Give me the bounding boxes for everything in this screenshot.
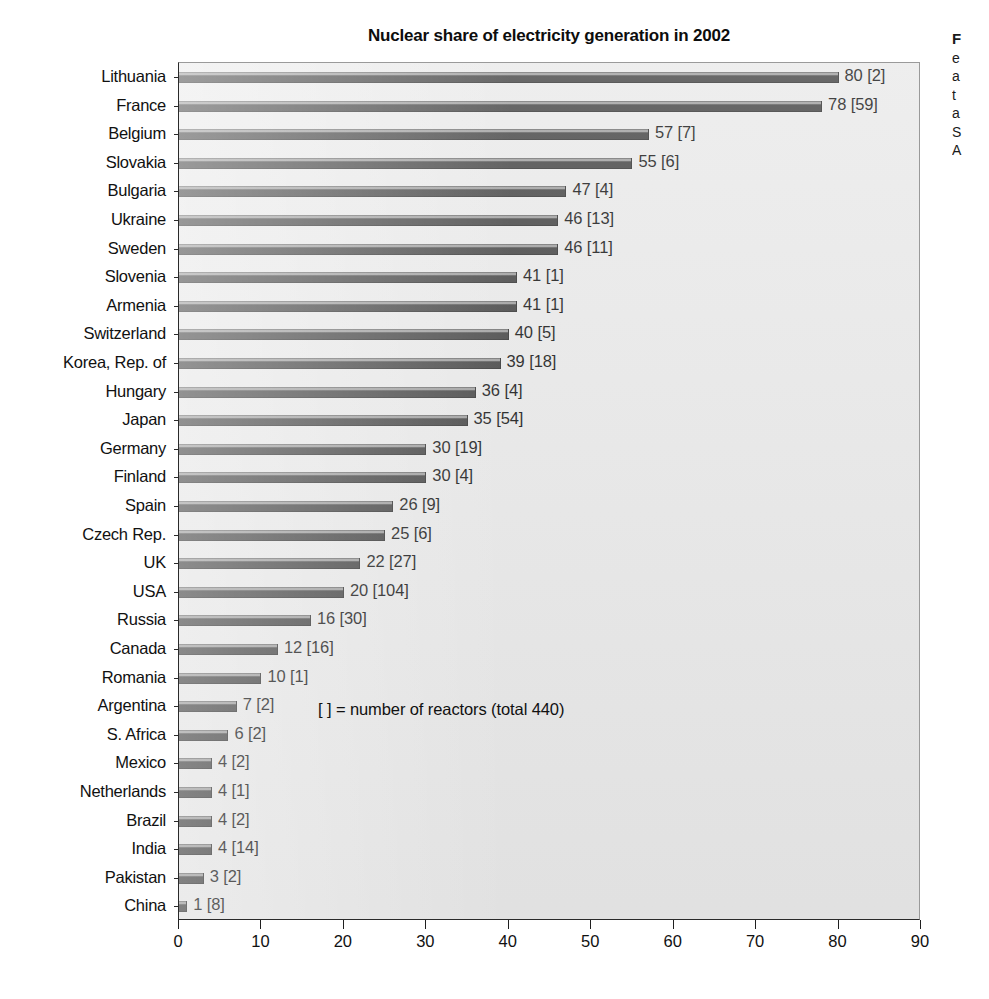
bar-row: 41 [1] <box>179 263 919 292</box>
bar-row: 10 [1] <box>179 664 919 693</box>
y-axis-category-label: Ukraine <box>0 205 166 234</box>
bar-value-label: 57 [7] <box>655 123 696 142</box>
x-axis-tick-label: 0 <box>173 932 182 951</box>
bar <box>179 329 509 340</box>
bar-row: 46 [11] <box>179 235 919 264</box>
bar <box>179 816 212 827</box>
bar-value-label: 30 [4] <box>432 466 473 485</box>
y-axis-category-label: Lithuania <box>0 62 166 91</box>
y-axis-tick <box>174 592 179 593</box>
bar <box>179 472 426 483</box>
bar <box>179 501 393 512</box>
bar-value-label: 55 [6] <box>638 152 679 171</box>
bar <box>179 615 311 626</box>
bar <box>179 587 344 598</box>
x-axis-tick-label: 80 <box>828 932 846 951</box>
x-axis-tick <box>178 920 179 929</box>
bar <box>179 186 566 197</box>
bar <box>179 730 228 741</box>
bar-row: 25 [6] <box>179 521 919 550</box>
bar-value-label: 20 [104] <box>350 581 409 600</box>
bar-row: 35 [54] <box>179 406 919 435</box>
x-axis-tick <box>425 920 426 929</box>
y-axis-tick <box>174 563 179 564</box>
bar-row: 1 [8] <box>179 892 919 921</box>
bar <box>179 301 517 312</box>
x-axis-tick-label: 90 <box>911 932 929 951</box>
bar-row: 47 [4] <box>179 177 919 206</box>
y-axis-tick <box>174 706 179 707</box>
y-axis-category-label: Russia <box>0 605 166 634</box>
y-axis-tick <box>174 620 179 621</box>
y-axis-tick <box>174 849 179 850</box>
x-axis-tick <box>508 920 509 929</box>
y-axis-category-label: Argentina <box>0 691 166 720</box>
y-axis-category-label: Hungary <box>0 377 166 406</box>
y-axis-category-label: Slovenia <box>0 262 166 291</box>
bar-value-label: 12 [16] <box>284 638 334 657</box>
bar-value-label: 7 [2] <box>243 695 275 714</box>
bar-value-label: 4 [2] <box>218 752 250 771</box>
bar-value-label: 41 [1] <box>523 295 564 314</box>
y-axis-category-label: Bulgaria <box>0 176 166 205</box>
bar <box>179 272 517 283</box>
y-axis-category-label: S. Africa <box>0 720 166 749</box>
y-axis-category-label: Spain <box>0 491 166 520</box>
bar <box>179 644 278 655</box>
x-axis-tick-label: 20 <box>334 932 352 951</box>
bar-value-label: 41 [1] <box>523 266 564 285</box>
bar <box>179 901 187 912</box>
bar-row: 80 [2] <box>179 63 919 92</box>
chart-title: Nuclear share of electricity generation … <box>178 26 920 46</box>
bar-row: 41 [1] <box>179 292 919 321</box>
bar-value-label: 46 [11] <box>564 238 613 257</box>
bar-value-label: 16 [30] <box>317 609 367 628</box>
x-axis-tick-label: 50 <box>581 932 599 951</box>
y-axis-category-label: Korea, Rep. of <box>0 348 166 377</box>
y-axis-tick <box>174 363 179 364</box>
plot-area: 80 [2]78 [59]57 [7]55 [6]47 [4]46 [13]46… <box>178 62 920 920</box>
bar-value-label: 4 [2] <box>218 810 250 829</box>
bar-row: 4 [2] <box>179 807 919 836</box>
bar-row: 4 [2] <box>179 749 919 778</box>
bar-value-label: 35 [54] <box>474 409 524 428</box>
bar-value-label: 1 [8] <box>193 895 225 914</box>
side-caption-line: A <box>952 141 989 160</box>
bar <box>179 530 385 541</box>
y-axis-category-label: USA <box>0 577 166 606</box>
bar-value-label: 80 [2] <box>845 66 886 85</box>
bar-value-label: 25 [6] <box>391 524 432 543</box>
y-axis-tick <box>174 163 179 164</box>
x-axis: 0102030405060708090 <box>178 920 920 980</box>
y-axis-category-label: Czech Rep. <box>0 520 166 549</box>
bar-value-label: 3 [2] <box>210 867 242 886</box>
y-axis-category-label: India <box>0 834 166 863</box>
y-axis-category-label: France <box>0 91 166 120</box>
x-axis-tick <box>343 920 344 929</box>
y-axis-tick <box>174 77 179 78</box>
bar <box>179 415 468 426</box>
y-axis-tick <box>174 449 179 450</box>
y-axis-category-label: Slovakia <box>0 148 166 177</box>
y-axis-tick <box>174 306 179 307</box>
bar <box>179 158 632 169</box>
y-axis-tick <box>174 477 179 478</box>
y-axis-tick <box>174 134 179 135</box>
bar-value-label: 78 [59] <box>828 95 878 114</box>
y-axis-tick <box>174 506 179 507</box>
side-caption-line: e <box>952 49 989 68</box>
y-axis-category-label: Japan <box>0 405 166 434</box>
y-axis-tick <box>174 106 179 107</box>
y-axis-tick <box>174 249 179 250</box>
y-axis-tick <box>174 678 179 679</box>
bar <box>179 844 212 855</box>
y-axis-tick <box>174 220 179 221</box>
bar-value-label: 4 [14] <box>218 838 259 857</box>
bar-row: 3 [2] <box>179 864 919 893</box>
side-caption-line: t <box>952 86 989 105</box>
x-axis-tick <box>838 920 839 929</box>
x-axis-tick <box>673 920 674 929</box>
bar-value-label: 26 [9] <box>399 495 440 514</box>
bar <box>179 72 839 83</box>
y-axis-tick <box>174 649 179 650</box>
